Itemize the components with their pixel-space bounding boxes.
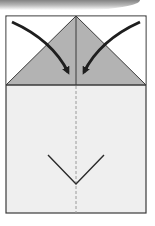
origami-diagram bbox=[0, 0, 155, 226]
